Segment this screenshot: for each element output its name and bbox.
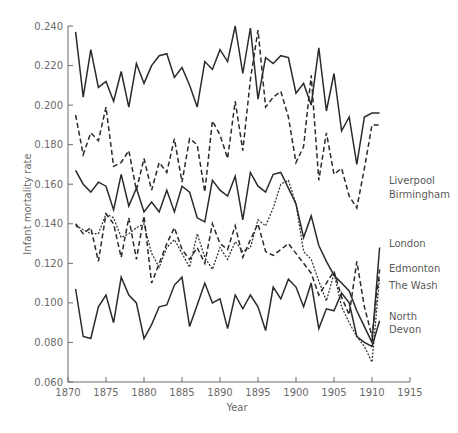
series-label-london: London bbox=[389, 238, 426, 249]
series-labels: LiverpoolBirminghamLondonEdmontonThe Was… bbox=[388, 175, 450, 335]
series-birmingham bbox=[76, 30, 380, 208]
series-lines bbox=[76, 26, 380, 362]
series-label-birmingham: Birmingham bbox=[389, 189, 450, 200]
y-tick-label: 0.160 bbox=[34, 179, 63, 190]
y-tick-label: 0.220 bbox=[34, 60, 63, 71]
x-axis-title: Year bbox=[225, 402, 248, 413]
series-label-north-devon: North bbox=[389, 311, 417, 322]
y-tick-label: 0.180 bbox=[34, 139, 63, 150]
series-label-liverpool: Liverpool bbox=[389, 175, 435, 186]
y-axis-title: Infant mortality rate bbox=[22, 153, 33, 254]
y-tick-label: 0.200 bbox=[34, 100, 63, 111]
x-tick-label: 1895 bbox=[245, 387, 270, 398]
x-tick-label: 1910 bbox=[359, 387, 384, 398]
y-tick-label: 0.060 bbox=[34, 377, 63, 388]
x-tick-label: 1885 bbox=[169, 387, 194, 398]
x-tick-label: 1915 bbox=[397, 387, 422, 398]
y-tick-label: 0.240 bbox=[34, 21, 63, 32]
x-tick-label: 1905 bbox=[321, 387, 346, 398]
axes: 0.0600.0800.1000.1200.1400.1600.1800.200… bbox=[34, 21, 422, 399]
y-tick-label: 0.140 bbox=[34, 218, 63, 229]
series-north-devon bbox=[76, 277, 380, 346]
x-tick-label: 1890 bbox=[207, 387, 232, 398]
y-tick-label: 0.080 bbox=[34, 337, 63, 348]
series-the-wash bbox=[76, 180, 380, 362]
infant-mortality-chart: 0.0600.0800.1000.1200.1400.1600.1800.200… bbox=[0, 0, 458, 433]
series-liverpool bbox=[76, 26, 380, 164]
y-tick-label: 0.120 bbox=[34, 258, 63, 269]
x-tick-label: 1900 bbox=[283, 387, 308, 398]
series-label-north-devon: Devon bbox=[389, 324, 421, 335]
series-label-edmonton: Edmonton bbox=[389, 263, 440, 274]
x-tick-label: 1870 bbox=[55, 387, 80, 398]
x-tick-label: 1880 bbox=[131, 387, 156, 398]
series-label-the-wash: The Wash bbox=[388, 280, 438, 291]
x-tick-label: 1875 bbox=[93, 387, 118, 398]
y-tick-label: 0.100 bbox=[34, 297, 63, 308]
